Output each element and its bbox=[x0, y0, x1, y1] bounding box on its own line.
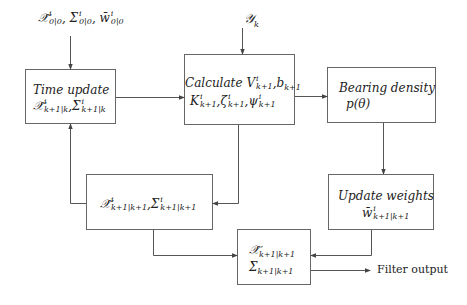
sep: , bbox=[92, 11, 96, 25]
posterior-formula: 𝒳̂ik+1|k+1,Σik+1|k+1 bbox=[100, 196, 196, 212]
calculate-title: Calculate bbox=[185, 76, 243, 90]
sep: , bbox=[62, 11, 66, 25]
calculate-line2: Kik+1,ζik+1,ψik+1 bbox=[190, 93, 275, 109]
bearing-density-title: Bearing density bbox=[339, 82, 435, 94]
filter-output-label: Filter output bbox=[377, 264, 448, 275]
output-line1: 𝒳̂k+1|k+1 bbox=[249, 244, 295, 259]
arrow-feedback-to-time-update bbox=[71, 124, 87, 204]
w-bar-symbol: w̄ bbox=[100, 11, 110, 25]
arrow-posterior-to-output bbox=[154, 230, 238, 256]
update-weights-title: Update weights bbox=[338, 190, 434, 202]
arrow-weights-to-output bbox=[311, 230, 372, 256]
initial-state-label: 𝒳̂i0|0, Σi0|0, w̄i0|0 bbox=[38, 10, 124, 26]
calculate-line1: Calculate Vik+1,bk+1 bbox=[185, 75, 301, 92]
x-hat-symbol: 𝒳̂ bbox=[33, 99, 43, 113]
arrow-calculate-to-posterior bbox=[213, 125, 239, 204]
filter-block-diagram: 𝒳̂i0|0, Σi0|0, w̄i0|0 𝒴k Time update 𝒳̂i… bbox=[0, 0, 467, 305]
y-symbol: 𝒴 bbox=[244, 11, 254, 26]
output-line2: Σk+1|k+1 bbox=[249, 261, 293, 276]
diagram-connectors bbox=[0, 0, 467, 305]
update-weights-formula: w̄ik+1|k+1 bbox=[362, 205, 409, 221]
y-sub: k bbox=[254, 20, 259, 29]
sigma-symbol: Σ bbox=[72, 99, 80, 113]
measurement-label: 𝒴k bbox=[244, 12, 259, 29]
x-hat-symbol: 𝒳̂ bbox=[38, 11, 48, 25]
time-update-title: Time update bbox=[33, 84, 109, 96]
bearing-density-box bbox=[328, 68, 436, 123]
bearing-density-formula: p(θ) bbox=[346, 98, 370, 110]
time-update-formula: 𝒳̂ik+1|k,Σik+1|k bbox=[33, 98, 106, 114]
